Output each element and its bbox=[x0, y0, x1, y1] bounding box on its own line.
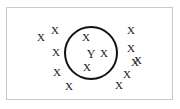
panel-frame bbox=[6, 7, 173, 100]
figure-root: XXXXXXXXXXXXYXX bbox=[0, 0, 180, 109]
